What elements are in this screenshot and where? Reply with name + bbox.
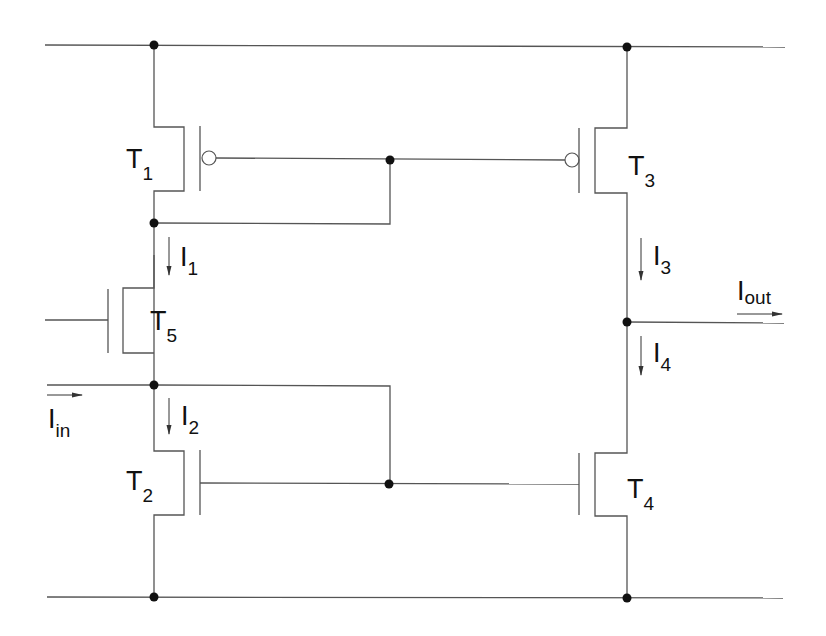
output-node-dot (623, 318, 632, 327)
iout-label: Iout (737, 276, 772, 308)
node-dot (150, 593, 159, 602)
node-dot (386, 156, 395, 165)
t3-gate-bubble-icon (565, 153, 579, 167)
iout-arrow-icon (737, 312, 783, 317)
iin-arrow-icon (47, 393, 83, 398)
input-node-dot (150, 381, 159, 390)
node-dot (385, 480, 394, 489)
i3-arrow-icon (639, 238, 644, 281)
node-dot (623, 43, 632, 52)
i2-label: I2 (181, 401, 199, 438)
node-dot (150, 219, 159, 228)
node-dot (623, 594, 632, 603)
t1-label: T1 (126, 144, 153, 184)
i2-arrow-icon (167, 398, 172, 435)
right-branch-wire (595, 47, 627, 598)
i4-arrow-icon (639, 336, 644, 376)
output-current-wire (627, 322, 784, 323)
i4-label: I4 (653, 338, 672, 375)
circuit-diagram: T1 T2 T3 T4 T5 I1 I2 I3 I4 Iin Iout (0, 0, 826, 636)
iin-label: Iin (48, 404, 70, 441)
t1-gate-bubble-icon (202, 151, 216, 165)
t1-diode-connection (154, 160, 390, 224)
i1-arrow-icon (167, 237, 172, 276)
t3-label: T3 (628, 151, 655, 191)
t2-label: T2 (126, 466, 153, 506)
i1-label: I1 (180, 242, 198, 279)
i3-label: I3 (653, 241, 671, 278)
t5-channel (123, 255, 154, 353)
node-dot (150, 41, 159, 50)
t4-label: T4 (627, 474, 655, 514)
